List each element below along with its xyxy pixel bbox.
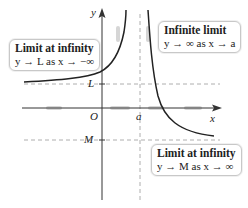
limits-diagram: y x O a L M Limit at infinity y → L as x…: [0, 0, 248, 208]
a-label: a: [136, 110, 142, 122]
callout-title: Limit at infinity: [15, 42, 94, 55]
callout-subtitle: y → ∞ as x → a: [164, 37, 235, 50]
callout-infinite-limit: Infinite limit y → ∞ as x → a: [158, 21, 241, 53]
callout-title: Limit at infinity: [157, 147, 236, 160]
callout-limit-pos-infinity: Limit at infinity y → M as x → ∞: [151, 144, 242, 176]
origin-label: O: [90, 110, 98, 122]
x-axis-label: x: [210, 112, 215, 124]
M-label: M: [84, 133, 93, 145]
L-label: L: [88, 77, 94, 89]
callout-title: Infinite limit: [164, 24, 235, 37]
callout-subtitle: y → L as x → −∞: [15, 55, 94, 68]
y-axis-label: y: [91, 6, 96, 18]
callout-subtitle: y → M as x → ∞: [157, 160, 236, 173]
callout-limit-neg-infinity: Limit at infinity y → L as x → −∞: [9, 39, 100, 71]
